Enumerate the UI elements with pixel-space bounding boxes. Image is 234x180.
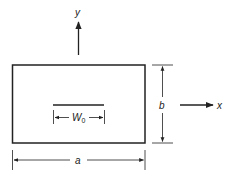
x-axis-label: x [216, 100, 223, 111]
y-axis-label: y [74, 7, 81, 18]
b-label: b [159, 100, 165, 111]
plate-diagram: y x W0 b a [0, 0, 234, 180]
w0-label: W0 [72, 112, 85, 124]
plate-rectangle [13, 65, 146, 143]
a-label: a [75, 155, 81, 166]
